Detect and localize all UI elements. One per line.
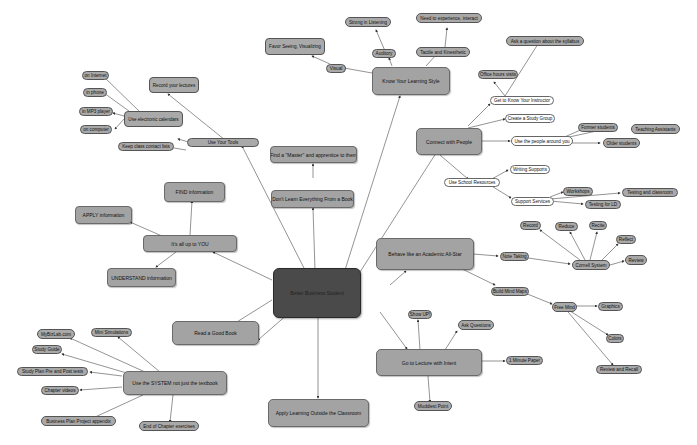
node-one-minute-paper[interactable]: 1 Minute Paper xyxy=(506,356,543,365)
node-label: Colors xyxy=(608,336,621,341)
node-label: Find a "Master" and apprentice to them xyxy=(270,152,357,158)
node-ask-questions[interactable]: Ask Questions xyxy=(458,320,494,330)
node-writing-supports[interactable]: Writing Supports xyxy=(510,165,550,174)
node-label: Muddiest Point xyxy=(418,404,448,409)
node-label: Don't Learn Everything From a Book xyxy=(272,196,353,202)
node-strong-listening[interactable]: Strong in Listening xyxy=(345,17,391,27)
node-label: Business Plan Project appendix xyxy=(46,419,111,424)
node-colors[interactable]: Colors xyxy=(606,334,624,343)
node-label: Older students xyxy=(607,141,637,146)
node-tactile-kinesthetic[interactable]: Tactile and Kinesthetic xyxy=(416,47,470,57)
node-label: Office hours visits xyxy=(480,72,516,77)
node-show-up[interactable]: Show UP! xyxy=(408,310,432,319)
node-in-phone[interactable]: in phone xyxy=(83,88,107,97)
node-muddiest-point[interactable]: Muddiest Point xyxy=(414,401,452,411)
node-know-learning-style[interactable]: Know Your Learning Style xyxy=(372,67,450,95)
central-topic-node[interactable]: Better Business Student xyxy=(273,268,361,318)
node-on-internet[interactable]: on Internet xyxy=(82,71,109,80)
node-label: Use Your Tools xyxy=(208,140,239,145)
node-label: Auditory xyxy=(376,51,393,56)
node-in-mp3-player[interactable]: in MP3 player xyxy=(79,107,113,116)
node-reduce[interactable]: Reduce xyxy=(555,222,578,231)
node-recite[interactable]: Recite xyxy=(589,221,607,230)
node-label: Study Guide xyxy=(34,347,59,352)
node-label: Tactile and Kinesthetic xyxy=(420,50,466,55)
node-academic-all-star[interactable]: Behave like an Academic All-Star xyxy=(376,238,474,270)
node-label: Apply Learning Outside the Classroom xyxy=(276,410,362,416)
node-workshops[interactable]: Workshops xyxy=(563,187,593,196)
node-label: Review and Recall xyxy=(600,367,638,372)
node-get-to-know-instructor[interactable]: Get to Know Your Instructor xyxy=(490,96,554,105)
node-use-system[interactable]: Use the SYSTEM not just the textbook xyxy=(123,371,227,395)
node-reflect[interactable]: Reflect xyxy=(616,235,636,244)
node-mini-simulations[interactable]: Mini Simulations xyxy=(91,328,132,337)
node-favor-seeing[interactable]: Favor Seeing, Visualizing xyxy=(265,38,325,55)
node-label: Testing for LD xyxy=(589,202,617,207)
node-label: in phone xyxy=(86,90,104,95)
node-label: UNDERSTAND information xyxy=(111,275,171,281)
node-study-plan-tests[interactable]: Study Plan Pre and Post tests xyxy=(17,367,88,376)
node-label: Need to experience, interact xyxy=(420,16,477,21)
node-label: End of Chapter exercises xyxy=(143,424,195,429)
node-lecture-intent[interactable]: Go to Lecture with Intent xyxy=(376,349,482,376)
node-on-computer[interactable]: on computer xyxy=(80,125,112,134)
node-apply-outside-classroom[interactable]: Apply Learning Outside the Classroom xyxy=(268,399,369,427)
node-note-taking[interactable]: Note Taking xyxy=(500,252,529,261)
node-study-guide[interactable]: Study Guide xyxy=(32,345,62,354)
node-need-experience[interactable]: Need to experience, interact xyxy=(416,13,482,23)
node-review[interactable]: Review xyxy=(625,255,647,265)
node-use-people-around[interactable]: Use the people around you xyxy=(511,136,573,146)
node-auditory[interactable]: Auditory xyxy=(372,49,396,58)
node-label: Show UP! xyxy=(410,312,430,317)
node-label: on computer xyxy=(83,127,109,132)
node-label: Keep class contact lists xyxy=(122,144,170,149)
node-label: Support Services xyxy=(515,199,550,204)
node-label: FIND information xyxy=(176,189,214,195)
node-connect-with-people[interactable]: Connect with People xyxy=(416,128,482,155)
node-ask-syllabus[interactable]: Ask a question about the syllabus xyxy=(506,36,584,46)
node-label: in MP3 player xyxy=(82,109,110,114)
node-business-plan-appendix[interactable]: Business Plan Project appendix xyxy=(41,416,116,426)
node-support-services[interactable]: Support Services xyxy=(511,197,554,206)
node-all-up-to-you[interactable]: It's all up to YOU xyxy=(143,235,237,252)
node-apply-information[interactable]: APPLY information xyxy=(75,206,132,224)
node-former-students[interactable]: Former students xyxy=(578,123,618,132)
node-chapter-videos[interactable]: Chapter videos xyxy=(41,386,79,395)
node-record[interactable]: Record xyxy=(520,221,541,230)
node-build-mind-maps[interactable]: Build Mind Maps xyxy=(491,287,529,296)
node-label: Connect with People xyxy=(426,139,472,145)
node-visual[interactable]: Visual xyxy=(326,64,346,73)
node-use-your-tools[interactable]: Use Your Tools xyxy=(187,138,259,147)
node-label: Chapter videos xyxy=(45,388,76,393)
node-review-recall[interactable]: Review and Recall xyxy=(596,365,642,374)
node-end-chapter-exercises[interactable]: End of Chapter exercises xyxy=(139,421,199,431)
node-find-information[interactable]: FIND information xyxy=(164,182,225,202)
node-cornell-system[interactable]: Cornell System xyxy=(572,260,610,270)
node-label: Record xyxy=(523,223,538,228)
node-label: It's all up to YOU xyxy=(171,241,208,247)
node-office-hours[interactable]: Office hours visits xyxy=(478,70,518,79)
node-label: Testing and classroom xyxy=(627,190,673,195)
node-record-lectures[interactable]: Record your lectures xyxy=(149,77,199,93)
node-mybizlab[interactable]: MyBizLab.com xyxy=(37,329,75,339)
node-label: Writing Supports xyxy=(513,167,547,172)
node-label: Get to Know Your Instructor xyxy=(494,98,550,103)
node-label: Favor Seeing, Visualizing xyxy=(269,44,321,49)
node-class-contact-lists[interactable]: Keep class contact lists xyxy=(118,142,174,151)
node-older-students[interactable]: Older students xyxy=(603,138,640,148)
node-teaching-assistants[interactable]: Teaching Assistants xyxy=(631,124,680,134)
node-graphics[interactable]: Graphics xyxy=(598,302,623,311)
node-electronic-calendars[interactable]: Use electronic calendars xyxy=(124,111,183,127)
node-study-group[interactable]: Create a Study Group xyxy=(505,114,555,123)
node-label: Use electronic calendars xyxy=(128,117,178,122)
node-testing-classroom[interactable]: Testing and classroom xyxy=(622,188,678,197)
node-label: Study Plan Pre and Post tests xyxy=(22,369,83,374)
node-testing-ld[interactable]: Testing for LD xyxy=(585,200,621,209)
node-dont-learn-from-book[interactable]: Don't Learn Everything From a Book xyxy=(271,190,354,208)
node-understand-information[interactable]: UNDERSTAND information xyxy=(107,268,176,287)
node-use-school-resources[interactable]: Use School Resources xyxy=(444,178,500,187)
node-read-good-book[interactable]: Read a Good Book xyxy=(172,321,259,345)
node-free-mind[interactable]: Free Mind xyxy=(552,302,577,312)
node-label: Workshops xyxy=(567,189,590,194)
node-find-master[interactable]: Find a "Master" and apprentice to them xyxy=(270,146,357,163)
